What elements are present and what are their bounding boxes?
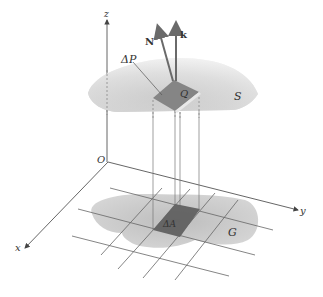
origin-label: O [97, 154, 105, 165]
x-axis-label: x [15, 242, 21, 253]
diagram-canvas: z y x O S ΔP Q N k G ΔA [0, 0, 323, 297]
normal-vector-label: N [145, 36, 154, 47]
surface-patch-label: ΔP [120, 53, 137, 66]
point-q-label: Q [180, 88, 188, 99]
surface-label: S [234, 90, 242, 103]
region-patch-label: ΔA [162, 219, 176, 229]
region-label: G [228, 226, 237, 239]
z-axis-label: z [103, 9, 109, 19]
unit-vector-label: k [180, 29, 188, 40]
y-axis-label: y [299, 205, 306, 216]
